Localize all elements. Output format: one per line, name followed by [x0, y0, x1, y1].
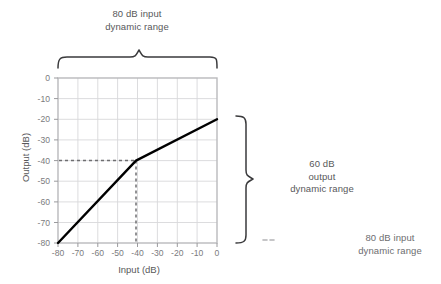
input-range-brace — [58, 50, 217, 68]
clipped-annotation-line1: 80 dB input — [340, 232, 440, 245]
output-dynamic-range-line3: dynamic range — [262, 183, 382, 196]
output-range-brace — [236, 116, 253, 243]
x-tick-label: -80 — [47, 248, 69, 258]
x-tick-label: -30 — [146, 248, 168, 258]
x-tick-label: 0 — [206, 248, 228, 258]
output-dynamic-range-line1: 60 dB — [262, 158, 382, 171]
x-tick-label: -70 — [67, 248, 89, 258]
x-axis-title: Input (dB) — [104, 264, 174, 275]
output-dynamic-range-line2: output — [262, 171, 382, 184]
x-tick-label: -20 — [166, 248, 188, 258]
clipped-input-dynamic-range-annotation: 80 dB input dynamic range — [340, 232, 440, 257]
y-tick-label: -70 — [26, 218, 50, 228]
x-tick-label: -10 — [186, 248, 208, 258]
x-tick-label: -40 — [127, 248, 149, 258]
y-tick-label: -10 — [26, 94, 50, 104]
chart-figure: 0 -10 -20 -30 -40 -50 -60 -70 -80 -80 -7… — [0, 0, 441, 284]
clipped-annotation-line2: dynamic range — [340, 245, 440, 258]
y-tick-label: -60 — [26, 197, 50, 207]
output-dynamic-range-annotation: 60 dB output dynamic range — [262, 158, 382, 196]
y-tick-label: -80 — [26, 238, 50, 248]
x-tick-label: -50 — [107, 248, 129, 258]
input-dynamic-range-annotation: 80 dB input dynamic range — [77, 8, 197, 33]
y-axis-title: Output (dB) — [20, 123, 31, 193]
x-tick-label: -60 — [87, 248, 109, 258]
input-dynamic-range-line2: dynamic range — [77, 21, 197, 34]
input-dynamic-range-line1: 80 dB input — [77, 8, 197, 21]
y-tick-label: 0 — [26, 73, 50, 83]
